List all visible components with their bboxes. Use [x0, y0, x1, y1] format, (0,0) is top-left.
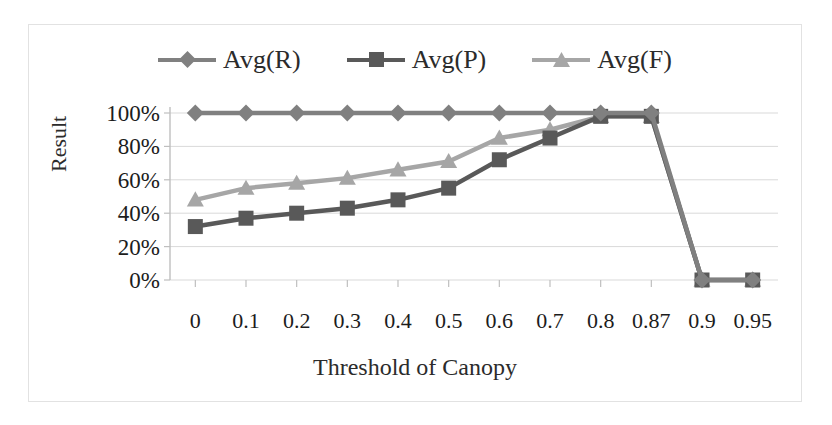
data-point-marker [187, 105, 204, 122]
data-series-avgr [187, 105, 761, 289]
data-point-marker [542, 105, 559, 122]
data-point-marker [391, 192, 406, 207]
data-point-marker [188, 219, 203, 234]
data-point-marker [238, 105, 255, 122]
data-point-marker [288, 105, 305, 122]
data-point-marker [289, 206, 304, 221]
series-line [195, 116, 752, 280]
data-point-marker [239, 211, 254, 226]
data-point-marker [340, 201, 355, 216]
data-point-marker [440, 105, 457, 122]
data-point-marker [492, 152, 507, 167]
data-point-marker [543, 131, 558, 146]
plot-area-wrapper: Result 100%80%60%40%20%0% 00.10.20.30.40… [28, 24, 802, 402]
data-series-avgp [188, 109, 760, 288]
series-line [195, 113, 752, 280]
data-point-marker [390, 105, 407, 122]
plot-canvas [28, 24, 802, 402]
chart-figure: Avg(R) Avg(P) Avg(F) [0, 0, 832, 425]
data-point-marker [491, 105, 508, 122]
data-point-marker [441, 181, 456, 196]
data-point-marker [339, 105, 356, 122]
series-line [195, 116, 752, 280]
x-axis-title: Threshold of Canopy [28, 354, 802, 381]
